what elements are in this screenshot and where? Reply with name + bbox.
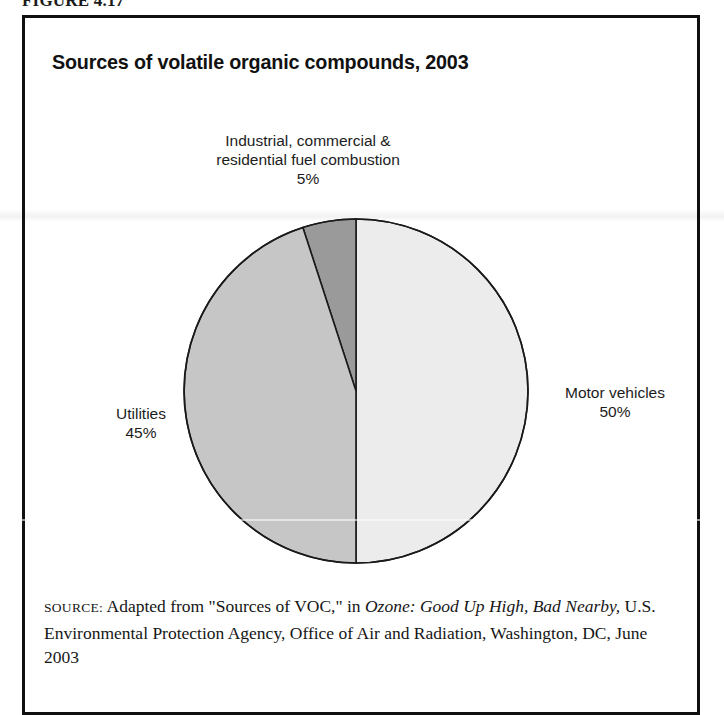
source-title-italic: Ozone: Good Up High, Bad Nearby, <box>365 596 620 616</box>
pie-label-fuel-combustion-line1: Industrial, commercial & <box>184 131 432 150</box>
pie-slice-motor-vehicles <box>356 219 528 563</box>
figure-number: FIGURE 4.17 <box>22 0 124 11</box>
pie-label-utilities: Utilities 45% <box>78 404 204 442</box>
source-note: SOURCE: Adapted from "Sources of VOC," i… <box>44 594 680 670</box>
pie-chart-svg <box>180 215 532 567</box>
pie-label-fuel-combustion-percent: 5% <box>184 169 432 188</box>
pie-label-fuel-combustion-line2: residential fuel combustion <box>184 150 432 169</box>
pie-label-utilities-percent: 45% <box>78 423 204 442</box>
pie-label-motor-vehicles-percent: 50% <box>540 402 690 421</box>
pie-label-motor-vehicles-name: Motor vehicles <box>540 383 690 402</box>
pie-label-utilities-name: Utilities <box>78 404 204 423</box>
source-text-1: Adapted from "Sources of VOC," in <box>103 596 365 616</box>
pie-label-fuel-combustion: Industrial, commercial & residential fue… <box>184 131 432 188</box>
pie-chart <box>180 215 532 567</box>
pie-label-motor-vehicles: Motor vehicles 50% <box>540 383 690 421</box>
source-label: SOURCE: <box>44 600 103 615</box>
chart-title: Sources of volatile organic compounds, 2… <box>52 50 468 74</box>
